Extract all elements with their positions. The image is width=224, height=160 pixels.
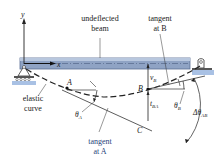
point-a-label: A xyxy=(66,78,72,87)
elastic-curve xyxy=(26,66,200,97)
point-c-label: C xyxy=(137,126,143,135)
y-axis xyxy=(22,18,26,64)
tangent-a-label-2: at A xyxy=(93,147,106,156)
elastic-curve-diagram: y x undeflected beam tangent at B elasti… xyxy=(0,0,224,160)
theta-a-label: θA xyxy=(75,110,83,120)
undeflected-beam-label: undeflected xyxy=(81,14,118,23)
x-axis-label: x xyxy=(56,60,61,69)
vb-label: vB xyxy=(150,73,156,83)
elastic-curve-label: elastic xyxy=(23,94,44,103)
right-pin-support xyxy=(192,59,214,75)
tba-label: tBA xyxy=(150,99,159,109)
point-b xyxy=(146,87,149,90)
tangent-b-label: tangent xyxy=(148,14,172,23)
theta-b-arc xyxy=(183,81,184,89)
tangent-b-label-2: at B xyxy=(153,24,166,33)
y-axis-label: y xyxy=(20,10,25,19)
elastic-curve-label-2: curve xyxy=(24,104,42,113)
delta-theta-label: ΔθAB xyxy=(192,108,207,118)
undeflected-beam-label-2: beam xyxy=(91,24,109,33)
point-b-label: B xyxy=(138,84,143,93)
theta-b-label: θB xyxy=(174,101,181,111)
tangent-a-label: tangent xyxy=(88,137,112,146)
